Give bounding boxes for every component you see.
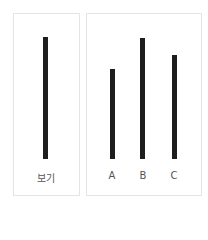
option-label-b: B xyxy=(131,170,155,181)
option-line-c xyxy=(172,55,177,159)
option-line-a xyxy=(110,69,115,159)
option-label-a: A xyxy=(100,170,124,181)
option-label-c: C xyxy=(162,170,186,181)
reference-line xyxy=(43,37,48,159)
reference-label: 보기 xyxy=(34,170,58,185)
option-line-b xyxy=(140,38,145,159)
